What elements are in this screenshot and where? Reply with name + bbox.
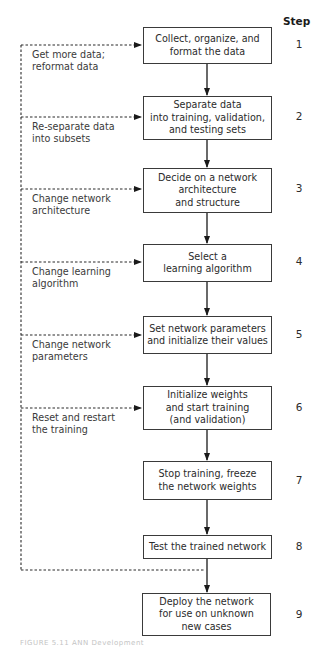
step-number-2: 2 [289, 110, 309, 122]
step-box-5: Set network parameters and initialize th… [143, 316, 272, 354]
step-number-8: 8 [289, 540, 309, 552]
step-box-4: Select a learning algorithm [143, 244, 272, 282]
step-box-7: Stop training, freeze the network weight… [143, 461, 272, 500]
step-box-2: Separate data into training, validation,… [143, 96, 272, 140]
step-box-8: Test the trained network [143, 535, 272, 559]
feedback-label-4: Change learning algorithm [32, 266, 111, 291]
feedback-label-5: Change network parameters [32, 339, 111, 364]
figure-caption: FIGURE 5.11 ANN Development [20, 639, 144, 647]
step-number-9: 9 [289, 608, 309, 620]
step-box-3: Decide on a network architecture and str… [143, 168, 272, 213]
step-number-3: 3 [289, 182, 309, 194]
feedback-label-2: Re-separate data into subsets [32, 121, 115, 146]
feedback-label-1: Get more data; reformat data [32, 49, 105, 74]
step-number-5: 5 [289, 328, 309, 340]
step-number-7: 7 [289, 474, 309, 486]
step-column-header: Step [283, 15, 310, 27]
step-box-1: Collect, organize, and format the data [143, 27, 272, 64]
step-number-6: 6 [289, 401, 309, 413]
step-box-9: Deploy the network for use on unknown ne… [142, 593, 271, 636]
step-number-4: 4 [289, 255, 309, 267]
step-box-6: Initialize weights and start training (a… [143, 386, 272, 430]
ann-development-flowchart: Step Collect, organize, and format the d… [0, 0, 322, 648]
step-number-1: 1 [289, 38, 309, 50]
feedback-label-3: Change network architecture [32, 193, 111, 218]
feedback-label-6: Reset and restart the training [32, 412, 115, 437]
